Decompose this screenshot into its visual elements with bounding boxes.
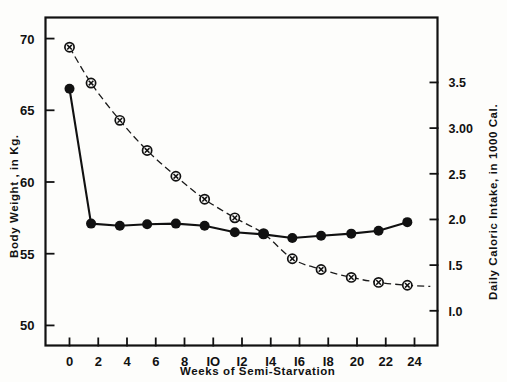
data-point-body-weight <box>346 229 356 239</box>
data-point-caloric-intake <box>230 213 239 222</box>
svg-text:55: 55 <box>20 247 34 262</box>
svg-text:I.0: I.0 <box>449 305 463 319</box>
data-point-body-weight <box>142 219 152 229</box>
data-point-caloric-intake <box>316 265 325 274</box>
svg-text:6: 6 <box>152 354 159 369</box>
right-axis-tick-labels: I.0I.52.02.53.003.5 <box>449 76 473 318</box>
data-point-body-weight <box>171 219 181 229</box>
svg-text:24: 24 <box>407 354 422 369</box>
data-point-body-weight <box>287 233 297 243</box>
data-point-body-weight <box>230 227 240 237</box>
svg-text:70: 70 <box>20 32 34 47</box>
svg-text:20: 20 <box>350 354 364 369</box>
left-axis-tick-labels: 5055606570 <box>20 32 34 334</box>
data-point-body-weight <box>115 221 125 231</box>
y-axis-title: Body Weight , in Kg. <box>8 134 20 258</box>
data-point-caloric-intake <box>171 172 180 181</box>
svg-text:2.5: 2.5 <box>449 168 466 182</box>
svg-text:3.5: 3.5 <box>449 76 466 90</box>
data-point-body-weight <box>374 226 384 236</box>
data-point-caloric-intake <box>143 146 152 155</box>
data-point-caloric-intake <box>115 116 124 125</box>
svg-text:2.0: 2.0 <box>449 213 466 227</box>
data-point-body-weight <box>316 231 326 241</box>
x-axis-title: Weeks of Semi-Starvation <box>180 365 335 377</box>
data-point-body-weight <box>402 217 412 227</box>
data-point-caloric-intake <box>200 195 209 204</box>
caloric-intake-line <box>70 47 431 286</box>
svg-text:4: 4 <box>123 354 131 369</box>
svg-text:60: 60 <box>20 175 34 190</box>
chart-canvas: 5055606570 I.0I.52.02.53.003.5 02468IOI2… <box>0 0 507 382</box>
data-point-caloric-intake <box>288 254 297 263</box>
y-axis-title-right: Daily Caloric Intake, in 1000 Cal. <box>487 104 499 300</box>
data-point-body-weight <box>259 229 269 239</box>
svg-text:50: 50 <box>20 318 34 333</box>
svg-text:2: 2 <box>95 354 102 369</box>
svg-text:0: 0 <box>66 354 73 369</box>
svg-text:22: 22 <box>379 354 393 369</box>
data-point-body-weight <box>200 221 210 231</box>
data-point-body-weight <box>86 219 96 229</box>
svg-text:3.00: 3.00 <box>449 122 473 136</box>
data-point-caloric-intake <box>347 273 356 282</box>
figure: 5055606570 I.0I.52.02.53.003.5 02468IOI2… <box>0 0 507 382</box>
data-point-caloric-intake <box>374 278 383 287</box>
caloric-intake-markers <box>65 43 412 290</box>
data-point-caloric-intake <box>403 281 412 290</box>
left-axis-ticks <box>46 39 55 326</box>
data-point-caloric-intake <box>65 43 74 52</box>
plot-frame <box>46 18 438 346</box>
data-point-body-weight <box>65 84 75 94</box>
data-point-caloric-intake <box>86 78 95 87</box>
svg-text:I.5: I.5 <box>449 259 463 273</box>
svg-text:65: 65 <box>20 103 34 118</box>
